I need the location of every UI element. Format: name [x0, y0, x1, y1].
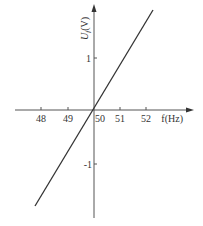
x-tick-label: 49: [63, 113, 73, 124]
y-axis-arrow-icon: [92, 4, 97, 12]
x-axis-label: f(Hz): [161, 113, 183, 125]
x-tick-label: 52: [141, 113, 151, 124]
chart-canvas: 48 49 50 51 52 1 -1 f(Hz) Uf(V): [0, 0, 203, 226]
y-tick-label: -1: [84, 159, 92, 170]
x-tick-label: 51: [115, 113, 125, 124]
svg-text:Uf(V): Uf(V): [79, 17, 92, 40]
y-tick-label: 1: [86, 53, 91, 64]
x-tick-label: 50: [95, 113, 105, 124]
x-tick-label: 48: [36, 113, 46, 124]
x-axis-arrow-icon: [186, 108, 194, 113]
y-axis-label: Uf(V): [79, 17, 92, 40]
